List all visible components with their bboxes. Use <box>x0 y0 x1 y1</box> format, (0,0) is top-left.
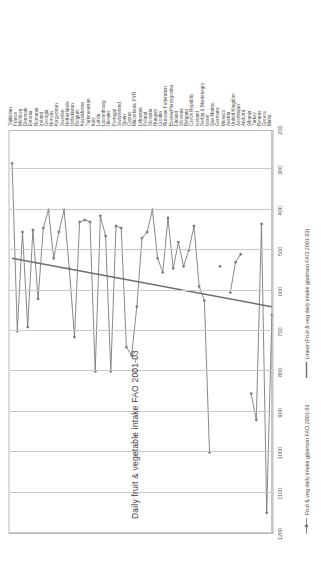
category-label: Malta <box>268 115 273 126</box>
data-point-marker <box>10 162 13 165</box>
value-tick-label: 1000 <box>276 447 282 459</box>
data-point-marker <box>36 297 39 300</box>
chart-title: Daily fruit & vegetable intake FAO 2001-… <box>129 350 139 519</box>
data-point-marker <box>161 271 164 274</box>
data-point-marker <box>254 418 257 421</box>
data-point-marker <box>249 392 252 395</box>
legend-item: Fruit & veg daily intake g/person FAO 20… <box>303 404 309 534</box>
data-series-line <box>12 163 272 513</box>
data-point-marker <box>259 222 262 225</box>
data-point-marker <box>83 218 86 221</box>
gridline <box>9 451 272 452</box>
rotated-figure: Daily fruit & vegetable intake FAO 2001-… <box>0 0 321 568</box>
gridline <box>9 492 272 493</box>
data-point-marker <box>88 220 91 223</box>
gridline <box>9 411 272 412</box>
data-point-marker <box>20 230 23 233</box>
series-layer <box>9 131 272 533</box>
value-tick-label: 400 <box>276 206 282 215</box>
gridline <box>9 532 272 533</box>
value-tick-label: 200 <box>276 125 282 134</box>
category-axis-line <box>271 131 272 533</box>
data-point-marker <box>202 299 205 302</box>
legend-marker-line-icon <box>303 518 309 534</box>
gridline <box>9 370 272 371</box>
data-point-marker <box>77 220 80 223</box>
value-tick-label: 1100 <box>276 488 282 500</box>
chart-legend: Fruit & veg daily intake g/person FAO 20… <box>296 64 316 534</box>
data-point-marker <box>72 335 75 338</box>
value-tick-label: 900 <box>276 408 282 417</box>
data-point-marker <box>239 253 242 256</box>
category-axis: TajikistanFranceMoldovaDenmarkEstoniaRom… <box>8 42 273 128</box>
data-point-marker <box>265 511 268 514</box>
data-point-marker <box>192 224 195 227</box>
plot-canvas <box>9 131 272 533</box>
value-axis: 120011001000900800700600500400300200 <box>274 130 296 534</box>
figure: Daily fruit & vegetable intake FAO 2001-… <box>0 0 321 568</box>
chart-page: Daily fruit & vegetable intake FAO 2001-… <box>0 0 321 568</box>
value-tick-label: 500 <box>276 247 282 256</box>
data-point-marker <box>135 305 138 308</box>
legend-label: Linear (Fruit & veg daily intake g/perso… <box>303 229 309 360</box>
legend-line-icon <box>303 362 309 378</box>
value-tick-label: 600 <box>276 287 282 296</box>
value-tick-label: 1200 <box>276 528 282 540</box>
gridline <box>9 168 272 169</box>
gridline <box>9 290 272 291</box>
data-point-marker <box>25 325 28 328</box>
gridline <box>9 209 272 210</box>
legend-label: Fruit & veg daily intake g/person FAO 20… <box>303 404 309 515</box>
data-point-marker <box>31 228 34 231</box>
value-tick-label: 800 <box>276 368 282 377</box>
gridline <box>9 330 272 331</box>
data-point-marker <box>114 224 117 227</box>
plot-area: Daily fruit & vegetable intake FAO 2001-… <box>8 130 273 534</box>
value-tick-label: 700 <box>276 327 282 336</box>
data-point-marker <box>228 291 231 294</box>
legend-item: Linear (Fruit & veg daily intake g/perso… <box>303 229 309 379</box>
data-point-marker <box>218 265 221 268</box>
value-tick-label: 300 <box>276 166 282 175</box>
data-point-marker <box>119 226 122 229</box>
data-point-marker <box>103 234 106 237</box>
gridline <box>9 249 272 250</box>
data-point-marker <box>166 216 169 219</box>
